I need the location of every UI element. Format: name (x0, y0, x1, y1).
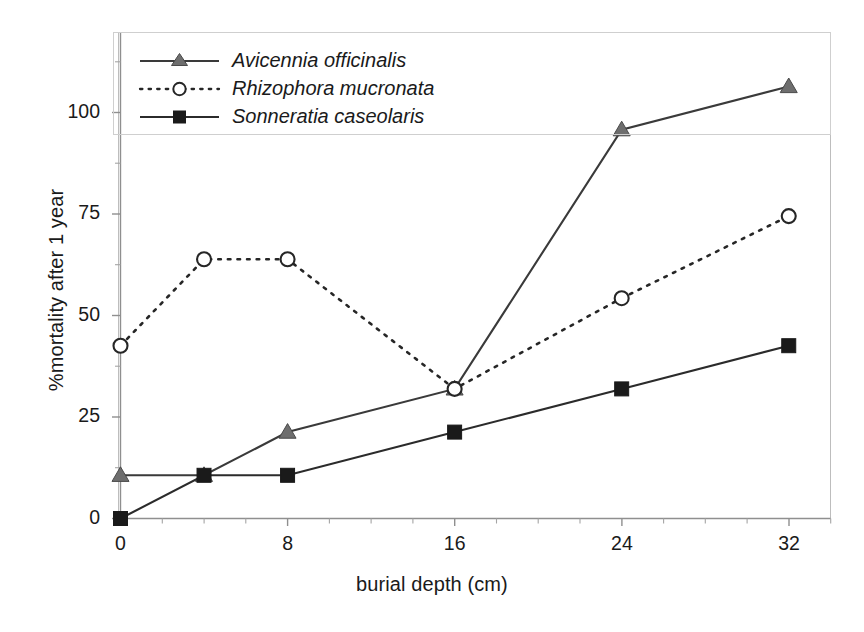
marker-circle (782, 209, 796, 223)
marker-square (448, 425, 462, 439)
marker-circle (448, 382, 462, 396)
legend-label-avicennia: Avicennia officinalis (232, 49, 406, 72)
marker-circle (615, 291, 629, 305)
marker-square (281, 468, 295, 482)
x-tick-label-0: 0 (91, 532, 151, 555)
x-tick-label-16: 16 (425, 532, 485, 555)
marker-square (197, 468, 211, 482)
marker-circle (114, 339, 128, 353)
plot-frame (119, 33, 831, 519)
marker-circle (197, 252, 211, 266)
x-tick-label-24: 24 (592, 532, 652, 555)
marker-square (114, 512, 128, 526)
legend-label-rhizophora: Rhizophora mucronata (232, 77, 434, 100)
y-tick-label-0: 0 (40, 506, 100, 529)
x-tick-label-8: 8 (258, 532, 318, 555)
marker-square (615, 382, 629, 396)
marker-circle (281, 252, 295, 266)
marker-square (782, 339, 796, 353)
x-tick-label-32: 32 (759, 532, 819, 555)
x-axis-minor-ticks (162, 519, 830, 524)
x-axis-major-ticks (121, 519, 790, 527)
x-axis-title: burial depth (cm) (0, 573, 864, 596)
y-axis-title: %mortality after 1 year (45, 189, 68, 391)
legend-label-sonneratia: Sonneratia caseolaris (232, 105, 424, 128)
y-tick-label-100: 100 (40, 100, 100, 123)
chart-figure: Avicennia officinalis Rhizophora mucrona… (0, 0, 864, 632)
